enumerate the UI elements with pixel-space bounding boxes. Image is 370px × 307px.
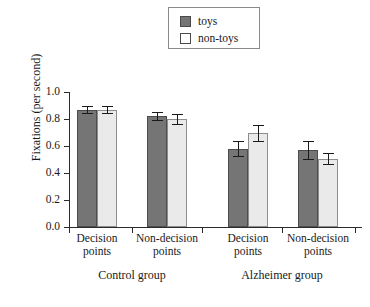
y-axis-tick-label: 0.6 <box>30 140 60 151</box>
error-bar-cap-lower <box>152 120 163 121</box>
y-axis-tick-label: 0.2 <box>30 194 60 205</box>
error-bar-line <box>177 114 178 123</box>
bar-non-toys <box>167 119 187 227</box>
y-axis-tick <box>64 173 70 174</box>
error-bar-cap-upper <box>152 112 163 113</box>
error-bar-cap-lower <box>323 164 334 165</box>
error-bar-line <box>258 125 259 141</box>
error-bar-cap-upper <box>253 125 264 126</box>
error-bar-cap-lower <box>233 156 244 157</box>
group-label: Control group <box>72 268 192 283</box>
y-axis-label: Fixations (per second) <box>29 28 44 188</box>
y-axis-tick-label: 0.8 <box>30 113 60 124</box>
y-axis-line <box>69 92 70 228</box>
bar-toys <box>298 150 318 227</box>
y-axis-tick <box>64 146 70 147</box>
category-label-line1: Non-decision <box>268 232 368 245</box>
bar-toys <box>147 116 167 227</box>
error-bar-cap-upper <box>102 106 113 107</box>
y-axis-tick-label: 0.0 <box>30 221 60 232</box>
y-axis-tick <box>64 92 70 93</box>
category-label: Non-decisionpoints <box>268 232 368 258</box>
y-axis-tick <box>64 119 70 120</box>
error-bar-line <box>238 141 239 156</box>
error-bar-line <box>157 112 158 120</box>
error-bar-cap-lower <box>82 113 93 114</box>
error-bar-cap-upper <box>172 114 183 115</box>
bar-non-toys <box>318 159 338 227</box>
bar-toys <box>77 110 97 227</box>
y-axis-tick <box>64 200 70 201</box>
error-bar-cap-lower <box>303 159 314 160</box>
error-bar-cap-upper <box>82 106 93 107</box>
error-bar-line <box>87 106 88 113</box>
bar-chart: Fixations (per second) 1.00.80.60.40.20.… <box>0 0 370 307</box>
error-bar-cap-upper <box>323 153 334 154</box>
bar-non-toys <box>248 133 268 227</box>
bar-non-toys <box>97 110 117 227</box>
y-axis-tick-label: 0.4 <box>30 167 60 178</box>
error-bar-cap-upper <box>303 141 314 142</box>
error-bar-cap-lower <box>102 113 113 114</box>
error-bar-line <box>308 141 309 159</box>
error-bar-cap-lower <box>172 124 183 125</box>
error-bar-line <box>107 106 108 113</box>
x-axis-line <box>69 227 362 228</box>
bar-toys <box>228 149 248 227</box>
y-axis-tick-label: 1.0 <box>30 86 60 97</box>
error-bar-cap-lower <box>253 141 264 142</box>
error-bar-line <box>328 153 329 164</box>
category-label-line2: points <box>268 245 368 258</box>
error-bar-cap-upper <box>233 141 244 142</box>
group-label: Alzheimer group <box>222 268 342 283</box>
